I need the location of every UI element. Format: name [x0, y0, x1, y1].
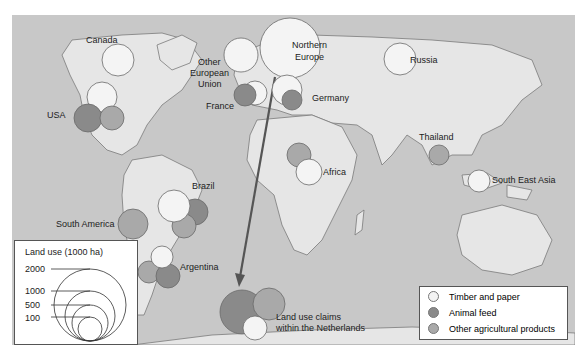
circle-sea-timber: [468, 170, 490, 192]
label-africa: Africa: [323, 167, 346, 178]
label-netherlands-1: Land use claims: [276, 312, 341, 323]
size-legend-100: 100: [25, 313, 40, 323]
legend-item-timber: Timber and paper: [428, 291, 520, 302]
label-russia: Russia: [410, 55, 438, 66]
label-france: France: [206, 101, 234, 112]
size-legend-1000: 1000: [25, 286, 45, 296]
label-netherlands-2: within the Netherlands: [276, 323, 365, 334]
circle-thailand-other: [429, 145, 449, 165]
circle-south-america-other: [118, 209, 148, 239]
label-canada: Canada: [86, 35, 118, 46]
label-northern-europe-2: Europe: [295, 52, 324, 63]
label-germany: Germany: [312, 93, 349, 104]
circle-africa-timber: [296, 159, 322, 185]
legend-item-other: Other agricultural products: [428, 323, 555, 334]
label-south-east-asia: South East Asia: [492, 175, 556, 186]
label-usa: USA: [47, 110, 66, 121]
circle-other-eu-timber: [224, 38, 258, 72]
circle-netherlands-timber: [243, 316, 267, 340]
label-argentina: Argentina: [180, 262, 219, 273]
circle-france-feed: [234, 84, 256, 106]
other-swatch-icon: [428, 323, 439, 334]
timber-swatch-icon: [428, 291, 439, 302]
label-other-eu-1: Other: [198, 57, 221, 68]
label-thailand: Thailand: [419, 132, 454, 143]
circle-canada-timber: [102, 44, 134, 76]
feed-swatch-icon: [428, 307, 439, 318]
size-legend-500: 500: [25, 300, 40, 310]
circle-usa-feed: [74, 104, 102, 132]
category-legend: Timber and paper Animal feed Other agric…: [419, 286, 568, 340]
circle-argentina-timber: [151, 246, 173, 268]
arrow-head-icon: [235, 273, 245, 287]
label-brazil: Brazil: [192, 181, 215, 192]
circle-brazil-timber: [158, 190, 190, 222]
legend-label-timber: Timber and paper: [449, 292, 520, 302]
circle-germany-feed: [282, 90, 302, 110]
size-legend: Land use (1000 ha) 2000 1000 500 100: [14, 240, 138, 345]
legend-item-feed: Animal feed: [428, 307, 497, 318]
circle-usa-other: [100, 106, 124, 130]
legend-label-other: Other agricultural products: [449, 324, 555, 334]
label-south-america: South America: [56, 219, 115, 230]
label-other-eu-2: European: [190, 68, 229, 79]
label-other-eu-3: Union: [198, 79, 222, 90]
label-northern-europe-1: Northern: [292, 40, 327, 51]
legend-label-feed: Animal feed: [449, 308, 497, 318]
size-legend-2000: 2000: [25, 264, 45, 274]
